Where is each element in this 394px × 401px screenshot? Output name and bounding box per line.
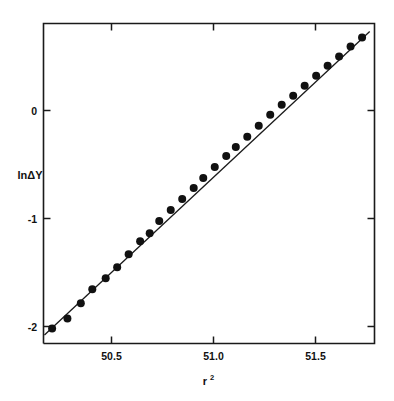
data-point	[255, 122, 263, 130]
data-point	[136, 237, 144, 245]
data-point	[211, 163, 219, 171]
data-point	[266, 111, 274, 119]
scatter-plot: 50.5 51.0 51.5 0 -1 -2 lnΔY r 2	[0, 0, 394, 401]
data-point	[312, 72, 320, 80]
x-axis-title-base: r	[203, 375, 208, 387]
y-tick-label-0: 0	[31, 105, 37, 117]
y-tick-label-2: -2	[28, 321, 37, 333]
data-point	[232, 143, 240, 151]
x-axis-ticks	[112, 337, 316, 344]
x-tick-label-1: 51.0	[203, 350, 224, 362]
y-axis-ticks-right	[368, 111, 375, 327]
data-point	[146, 229, 154, 237]
data-point	[278, 101, 286, 109]
data-point	[190, 184, 198, 192]
x-axis-title: r 2	[203, 373, 214, 387]
data-point	[167, 206, 175, 214]
data-point	[243, 133, 251, 141]
x-axis-title-exponent: 2	[210, 373, 214, 382]
data-point	[199, 174, 207, 182]
y-axis-title: lnΔY	[17, 169, 43, 181]
data-point	[358, 34, 366, 42]
y-tick-label-1: -1	[28, 213, 37, 225]
data-point	[48, 324, 56, 332]
data-point	[301, 82, 309, 90]
plot-frame	[44, 24, 375, 344]
data-point	[347, 43, 355, 51]
data-point	[77, 299, 85, 307]
data-point	[222, 152, 230, 160]
data-point	[63, 314, 71, 322]
data-point	[88, 285, 96, 293]
data-point	[324, 62, 332, 70]
x-axis-ticks-top	[112, 24, 316, 31]
data-point	[102, 274, 110, 282]
data-point	[113, 263, 121, 271]
data-point	[335, 53, 343, 61]
x-tick-label-2: 51.5	[305, 350, 326, 362]
data-point	[155, 217, 163, 225]
data-point	[289, 92, 297, 100]
data-point	[125, 250, 133, 258]
y-axis-ticks	[44, 111, 51, 327]
chart-figure: 50.5 51.0 51.5 0 -1 -2 lnΔY r 2	[0, 0, 394, 401]
data-point	[178, 195, 186, 203]
x-tick-label-0: 50.5	[101, 350, 122, 362]
